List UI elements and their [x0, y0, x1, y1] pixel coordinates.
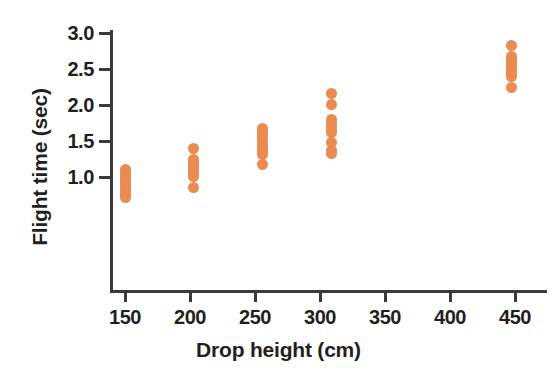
- data-points-layer: [0, 0, 557, 388]
- scatter-plot-figure: Flight time (sec) 1.01.52.02.53.0 150200…: [0, 0, 557, 388]
- data-point: [506, 71, 517, 82]
- data-point: [326, 88, 337, 99]
- data-point: [506, 82, 517, 93]
- data-point: [188, 182, 199, 193]
- data-point: [326, 99, 337, 110]
- x-axis-label: Drop height (cm): [0, 338, 557, 362]
- data-point: [326, 148, 337, 159]
- data-point: [120, 192, 131, 203]
- data-point: [257, 159, 268, 170]
- data-point: [188, 143, 199, 154]
- data-point: [506, 40, 517, 51]
- data-point: [188, 171, 199, 182]
